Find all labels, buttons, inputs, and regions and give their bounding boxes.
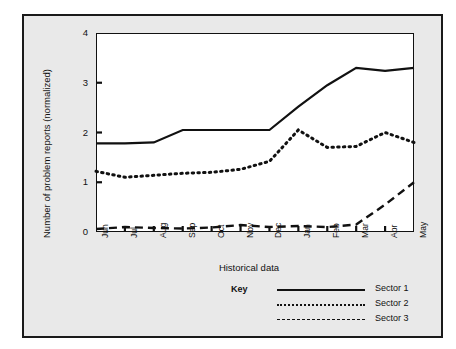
y-tick-label: 0 [74, 226, 88, 237]
x-tick-label: Nov [245, 223, 255, 238]
y-tick-label: 3 [74, 77, 88, 88]
x-tick-label: May [418, 222, 428, 238]
legend-label: Sector 1 [375, 283, 409, 293]
x-axis-label-text: Historical data [219, 262, 279, 273]
figure-root: © 1987 Prentice-Hall, Inc. Reprinted wit… [0, 0, 456, 349]
x-tick-label: Jun [100, 224, 110, 238]
x-tick-label: Apr [389, 225, 399, 238]
legend-label: Sector 3 [375, 313, 409, 323]
y-tick-label: 2 [74, 127, 88, 138]
legend-line-swatch [277, 289, 365, 291]
y-axis-label: Number of problem reports (normalized) [41, 69, 52, 238]
x-tick-label: Dec [273, 223, 283, 238]
legend-title: Key [231, 284, 248, 294]
x-tick-label: Oct [216, 225, 226, 238]
x-tick-label: Sep [187, 223, 197, 238]
legend-label: Sector 2 [375, 298, 409, 308]
y-tick-label: 1 [74, 176, 88, 187]
x-tick-label: Feb [331, 223, 341, 238]
legend-line-swatch [277, 304, 365, 306]
x-tick-label: Jul [129, 227, 139, 238]
x-tick-label: Mar [360, 223, 370, 238]
legend-line-swatch [277, 319, 365, 320]
plot-area [96, 33, 414, 232]
y-tick-label: 4 [74, 27, 88, 38]
x-tick-label: Aug [158, 223, 168, 238]
x-tick-label: Jan [302, 224, 312, 238]
x-axis-label: Historical data [0, 262, 456, 273]
